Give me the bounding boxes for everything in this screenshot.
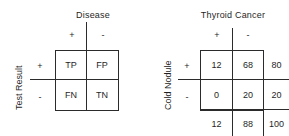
- right-table-cell-c: 0: [201, 91, 232, 100]
- right-table-row-header-plus: +: [180, 62, 194, 71]
- right-table-row-total-top: 80: [264, 61, 289, 70]
- right-table-box: [200, 50, 264, 111]
- right-table-cell-a: 12: [201, 61, 232, 70]
- right-table-cell-b: 68: [233, 61, 263, 70]
- right-table-col-total-right: 88: [233, 120, 263, 129]
- right-table-column-title: Thyroid Cancer: [188, 10, 278, 20]
- right-table-row-total-bottom: 20: [264, 91, 289, 100]
- right-table-col-header-minus: -: [237, 31, 259, 40]
- right-table-col-header-plus: +: [206, 31, 228, 40]
- right-table-col-total-left: 12: [201, 120, 232, 129]
- right-table-grand-total: 100: [264, 120, 289, 129]
- right-table-cell-d: 20: [233, 91, 263, 100]
- figure-canvas: Disease Test Result + - + - TP FP FN TN …: [0, 0, 289, 136]
- right-table-row-header-minus: -: [180, 93, 194, 102]
- right-table-row-title: Cold Nodule: [163, 60, 173, 110]
- right-table: Thyroid Cancer Cold Nodule + - + - 12 68…: [0, 0, 289, 136]
